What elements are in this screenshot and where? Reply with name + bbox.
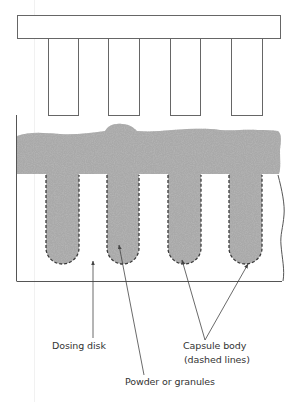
tamping-pin-1 — [49, 39, 79, 116]
tamping-pin-4 — [232, 39, 263, 116]
tamping-pins — [49, 39, 263, 116]
tamping-pin-3 — [171, 39, 201, 116]
leader-capsule-b — [205, 264, 248, 340]
leader-powder — [119, 245, 144, 375]
diagram-svg — [0, 0, 297, 402]
disk-break-line — [278, 175, 284, 281]
dosing-disk-diagram: Dosing disk Powder or granules Capsule b… — [0, 0, 297, 402]
powder-in-capsule-4 — [229, 172, 262, 264]
label-dosing-disk: Dosing disk — [52, 340, 106, 352]
label-capsule-body: Capsule body — [183, 340, 246, 352]
tamping-pin-2 — [109, 39, 140, 116]
powder-bed — [17, 124, 281, 264]
powder-in-capsule-1 — [46, 172, 79, 264]
powder-in-capsule-3 — [168, 172, 201, 264]
label-powder: Powder or granules — [125, 376, 215, 388]
label-capsule-dashed: (dashed lines) — [184, 354, 250, 366]
tamping-head — [18, 16, 281, 39]
leader-capsule-a — [182, 260, 205, 340]
powder-in-capsule-2 — [107, 172, 139, 264]
